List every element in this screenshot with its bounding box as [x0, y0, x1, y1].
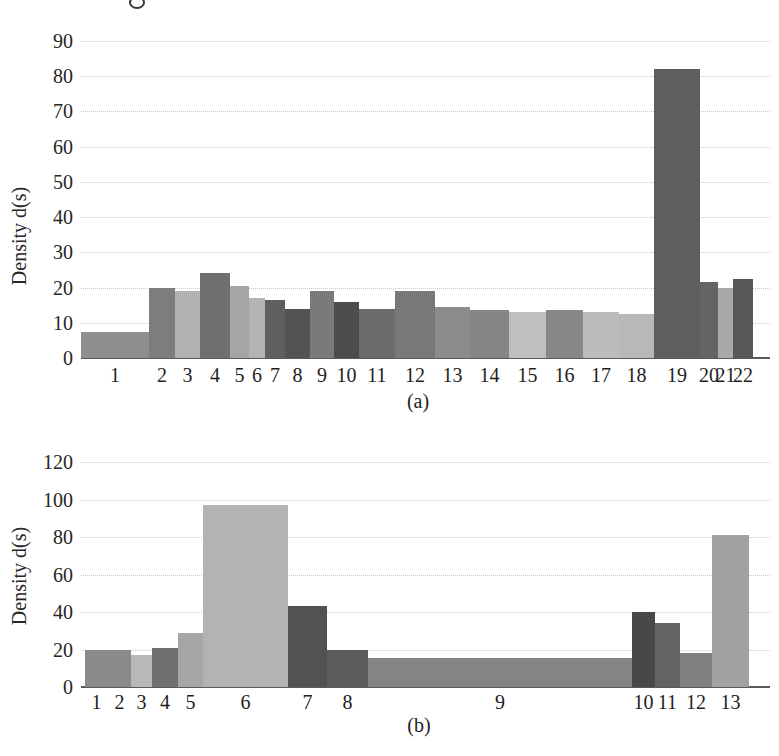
bar-b-8 [327, 650, 368, 688]
bar-b-2 [108, 650, 131, 688]
bar-a-20 [700, 282, 718, 358]
gridline-a-90 [81, 41, 770, 42]
bar-a-6 [249, 298, 265, 358]
bar-b-6 [203, 505, 288, 687]
y-tick-label-a-10: 10 [25, 313, 73, 333]
y-tick-label-b-80: 80 [25, 527, 73, 547]
y-tick-label-a-80: 80 [25, 66, 73, 86]
bar-a-12 [395, 291, 435, 358]
bar-a-11 [359, 309, 395, 358]
y-axis-label-a: Density d(s) [8, 187, 31, 285]
bar-a-17 [583, 312, 619, 358]
subfigure-caption-a: (a) [373, 390, 463, 413]
subfigure-caption-b: (b) [374, 714, 464, 737]
y-tick-label-b-120: 120 [25, 452, 73, 472]
y-tick-label-a-70: 70 [25, 101, 73, 121]
bar-b-3 [131, 655, 152, 687]
y-tick-label-a-20: 20 [25, 278, 73, 298]
y-tick-label-a-90: 90 [25, 31, 73, 51]
y-tick-label-b-60: 60 [25, 565, 73, 585]
x-tick-label-b-8: 8 [313, 691, 383, 713]
bar-a-9 [310, 291, 334, 358]
y-tick-label-b-40: 40 [25, 602, 73, 622]
y-tick-label-b-20: 20 [25, 640, 73, 660]
bar-a-10 [334, 302, 359, 358]
plot-area-a: 0102030405060708090123456789101112131415… [81, 41, 770, 358]
gridline-b-40 [81, 612, 770, 613]
x-tick-label-b-9: 9 [465, 691, 535, 713]
bar-a-4 [200, 273, 230, 358]
bar-b-1 [85, 650, 108, 688]
bar-a-3 [175, 291, 200, 358]
bar-a-19 [654, 69, 700, 358]
plot-area-b: 02040608010012012345678910111213 [81, 462, 770, 687]
bar-b-4 [152, 648, 178, 687]
bar-a-13 [435, 307, 470, 358]
bar-a-2 [149, 288, 175, 358]
bar-a-1 [81, 332, 149, 358]
bar-b-11 [655, 623, 680, 687]
y-tick-label-a-0: 0 [25, 348, 73, 368]
x-tick-label-b-13: 13 [696, 691, 766, 713]
bar-b-10 [632, 612, 655, 687]
cropped-glyph-artifact [129, 0, 145, 9]
x-tick-label-a-22: 22 [708, 364, 778, 386]
bar-b-13 [712, 535, 749, 687]
bar-a-16 [546, 310, 583, 358]
bar-b-12 [680, 653, 712, 687]
bar-a-8 [285, 309, 310, 358]
y-tick-label-a-50: 50 [25, 172, 73, 192]
y-tick-label-a-60: 60 [25, 137, 73, 157]
bar-a-14 [470, 310, 509, 358]
gridline-b-60 [81, 575, 770, 576]
bar-a-5 [230, 286, 249, 358]
y-tick-label-a-30: 30 [25, 242, 73, 262]
bar-b-9 [368, 658, 632, 687]
bar-b-7 [288, 606, 327, 687]
gridline-b-120 [81, 462, 770, 463]
bar-a-15 [509, 312, 546, 358]
bar-a-22 [733, 279, 753, 358]
bar-a-7 [265, 300, 285, 358]
y-tick-label-b-100: 100 [25, 490, 73, 510]
y-tick-label-a-40: 40 [25, 207, 73, 227]
x-tick-label-b-6: 6 [211, 691, 281, 713]
bar-b-5 [178, 633, 203, 687]
bar-a-21 [718, 288, 733, 358]
bar-a-18 [619, 314, 654, 358]
gridline-b-100 [81, 500, 770, 501]
gridline-b-80 [81, 537, 770, 538]
figure-page: Density d(s) 010203040506070809012345678… [0, 0, 779, 756]
